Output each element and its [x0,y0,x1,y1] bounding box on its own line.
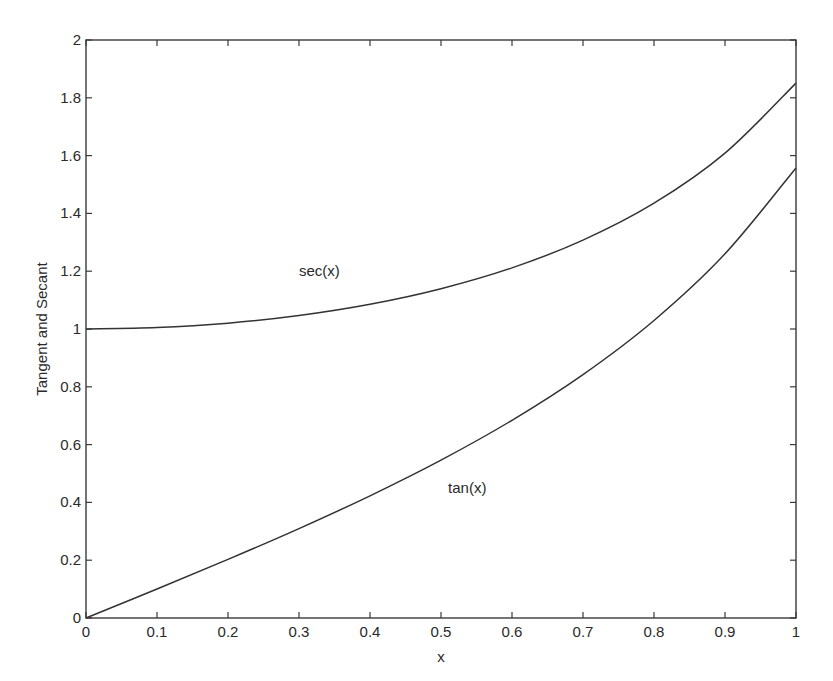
x-tick-label: 0.8 [644,623,665,640]
y-tick-label: 0.2 [60,551,81,568]
y-tick-label: 0.6 [60,436,81,453]
x-tick-label: 1 [792,623,800,640]
y-tick-label: 0 [73,609,81,626]
x-tick-label: 0.4 [360,623,381,640]
sec-curve [86,83,796,329]
x-tick-label: 0.7 [573,623,594,640]
tan-curve [86,168,796,618]
x-tick-label: 0.2 [218,623,239,640]
y-tick-labels: 00.20.40.60.811.21.41.61.82 [60,31,81,626]
x-tick-label: 0 [82,623,90,640]
plot-curves [86,83,796,618]
x-tick-label: 0.6 [502,623,523,640]
y-tick-label: 1.2 [60,262,81,279]
axis-ticks [86,40,796,618]
curve-label-tan: tan(x) [448,479,486,496]
chart: 00.10.20.30.40.50.60.70.80.91 00.20.40.6… [0,0,833,681]
x-tick-label: 0.1 [147,623,168,640]
y-tick-label: 0.8 [60,378,81,395]
plot-frame [86,40,796,618]
y-tick-label: 1.6 [60,147,81,164]
y-tick-label: 1 [73,320,81,337]
x-tick-label: 0.3 [289,623,310,640]
curve-label-sec: sec(x) [299,262,340,279]
curve-annotations: sec(x)tan(x) [299,262,486,496]
x-tick-label: 0.5 [431,623,452,640]
y-tick-label: 2 [73,31,81,48]
y-tick-label: 1.8 [60,89,81,106]
y-tick-label: 0.4 [60,493,81,510]
x-axis-label: x [437,648,445,665]
y-tick-label: 1.4 [60,204,81,221]
x-tick-labels: 00.10.20.30.40.50.60.70.80.91 [82,623,800,640]
y-axis-label: Tangent and Secant [33,261,50,395]
x-tick-label: 0.9 [715,623,736,640]
